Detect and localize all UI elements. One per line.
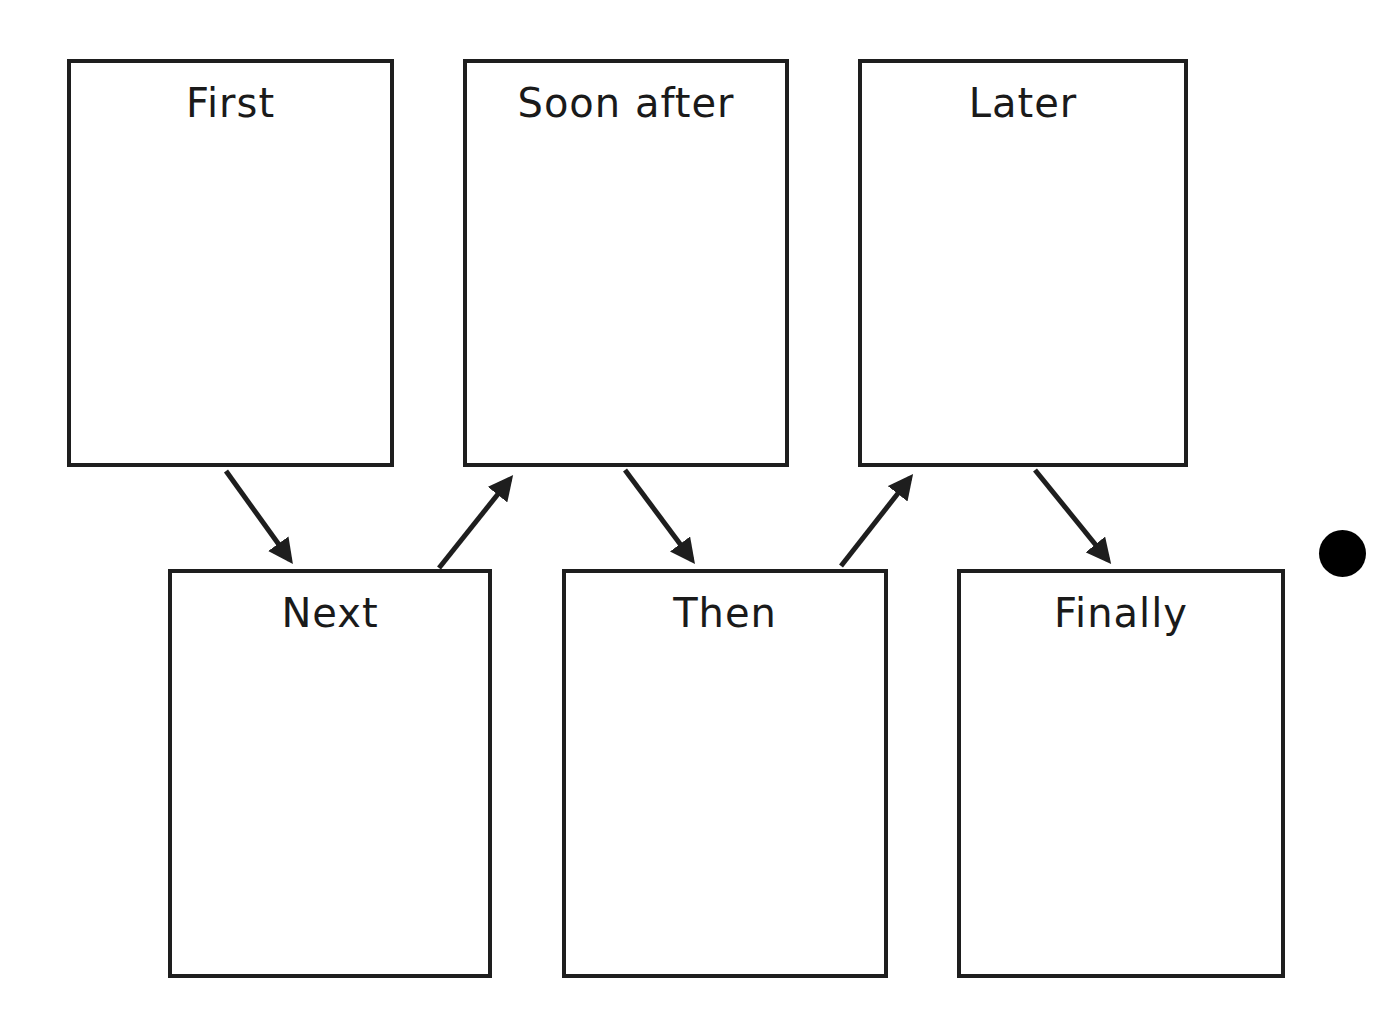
box-label-finally: Finally <box>961 591 1281 635</box>
box-soon-after: Soon after <box>463 59 789 467</box>
arrow-next-to-soon-after-icon <box>439 479 510 568</box>
arrow-then-to-later-icon <box>841 478 910 566</box>
box-then-writing-area[interactable] <box>576 653 874 964</box>
box-label-soon-after: Soon after <box>467 81 785 125</box>
box-later: Later <box>858 59 1188 467</box>
box-first-writing-area[interactable] <box>81 143 380 453</box>
box-next-writing-area[interactable] <box>182 653 478 964</box>
box-finally-writing-area[interactable] <box>971 653 1271 964</box>
arrow-first-to-next-icon <box>226 471 290 560</box>
filled-circle-icon <box>1319 530 1366 577</box>
sequence-organizer: First Soon after Later Next Then Finally <box>0 0 1389 1020</box>
box-then: Then <box>562 569 888 978</box>
box-finally: Finally <box>957 569 1285 978</box>
arrow-later-to-finally-icon <box>1035 470 1108 560</box>
box-later-writing-area[interactable] <box>872 143 1174 453</box>
box-label-next: Next <box>172 591 488 635</box>
arrow-soon-after-to-then-icon <box>625 470 692 560</box>
box-label-then: Then <box>566 591 884 635</box>
box-soon-after-writing-area[interactable] <box>477 143 775 453</box>
box-next: Next <box>168 569 492 978</box>
box-first: First <box>67 59 394 467</box>
box-label-later: Later <box>862 81 1184 125</box>
box-label-first: First <box>71 81 390 125</box>
